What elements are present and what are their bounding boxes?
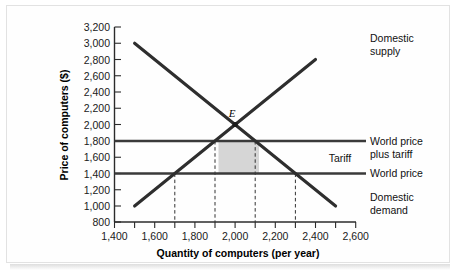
x-tick-label: 1,400: [101, 230, 127, 242]
y-tick-label: 2,200: [84, 102, 110, 114]
y-tick-label: 3,200: [84, 21, 110, 33]
y-tick-label: 2,400: [84, 86, 110, 98]
domestic-supply-curve: [135, 60, 316, 207]
y-tick-label: 1,400: [84, 168, 110, 180]
x-tick-label: 2,000: [222, 230, 248, 242]
y-tick-label: 3,000: [84, 37, 110, 49]
world-price-label: World price: [370, 167, 423, 179]
x-tick-label: 2,600: [343, 230, 369, 242]
equilibrium-point-label: E: [228, 107, 236, 119]
domestic-demand-label-line2: demand: [370, 204, 408, 216]
y-axis-title: Price of computers ($): [58, 70, 70, 181]
x-axis-ticks: [115, 222, 356, 228]
x-tick-label: 2,200: [262, 230, 288, 242]
tariff-revenue-shaded-region: [219, 142, 260, 175]
y-tick-label: 1,600: [84, 151, 110, 163]
x-axis-tick-labels: 1,400 1,600 1,800 2,000 2,200 2,400 2,60…: [101, 230, 369, 242]
y-tick-label: 1,800: [84, 135, 110, 147]
y-tick-label: 2,800: [84, 54, 110, 66]
domestic-supply-label-line1: Domestic: [370, 32, 414, 44]
y-axis-tick-labels: 3,200 3,000 2,800 2,600 2,400 2,200 2,00…: [84, 21, 110, 228]
world-price-plus-tariff-label-line2: plus tariff: [370, 148, 412, 160]
domestic-demand-label-line1: Domestic: [370, 191, 414, 203]
y-tick-label: 2,600: [84, 70, 110, 82]
y-tick-label: 1,200: [84, 184, 110, 196]
tariff-gap-label: Tariff: [329, 152, 352, 164]
equilibrium-point-dot: [233, 122, 238, 127]
y-axis-ticks: [115, 27, 122, 222]
y-tick-label: 1,000: [84, 200, 110, 212]
figure-root: 3,200 3,000 2,800 2,600 2,400 2,200 2,00…: [0, 0, 458, 279]
y-tick-label: 800: [92, 216, 110, 228]
domestic-supply-label-line2: supply: [370, 45, 401, 57]
world-price-plus-tariff-label-line1: World price: [370, 135, 423, 147]
supply-demand-tariff-chart: 3,200 3,000 2,800 2,600 2,400 2,200 2,00…: [0, 0, 458, 279]
x-tick-label: 2,400: [302, 230, 328, 242]
x-axis-title: Quantity of computers (per year): [157, 247, 320, 259]
x-tick-label: 1,800: [182, 230, 208, 242]
y-tick-label: 2,000: [84, 119, 110, 131]
x-tick-label: 1,600: [142, 230, 168, 242]
